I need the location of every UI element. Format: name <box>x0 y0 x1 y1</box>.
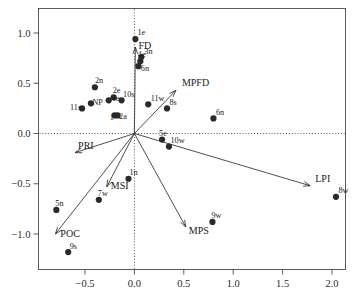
point-label: 5e <box>159 129 167 138</box>
vector-label-mpfd: MPFD <box>182 77 209 88</box>
point-label: 1 <box>110 113 114 122</box>
vector-label-lpi: LPI <box>315 173 330 184</box>
point-label: 4e <box>112 94 120 103</box>
point-label: 11s <box>70 103 81 112</box>
x-tick-label: −0.5 <box>75 278 94 289</box>
point-label: 8w <box>338 186 348 195</box>
vector-fd <box>134 47 135 133</box>
arrowhead-mps <box>180 220 185 227</box>
point-label: 6n <box>141 64 149 73</box>
x-tick-label: 0.5 <box>177 278 190 289</box>
biplot-svg: −0.50.00.51.01.52.01.00.50.0−0.5−1.0 1e3… <box>0 0 354 307</box>
point-label: 1e <box>137 28 145 37</box>
point-label: 5n <box>55 199 63 208</box>
point-label: 9s <box>70 242 77 251</box>
data-point <box>92 84 98 90</box>
axis-tick-labels: −0.50.00.51.01.52.01.00.50.0−0.5−1.0 <box>11 28 338 289</box>
y-tick-label: −0.5 <box>11 178 30 189</box>
point-label: 2n <box>95 76 103 85</box>
point-label: 7w <box>98 189 108 198</box>
point-label: 2a <box>119 112 127 121</box>
point-label: 10s <box>123 90 134 99</box>
loading-vector-labels: FDMPFDPRILPIPOCMSIMPS <box>60 40 330 239</box>
y-tick-label: 1.0 <box>17 28 30 39</box>
point-label: 1n <box>129 168 137 177</box>
vector-label-msi: MSI <box>111 180 129 191</box>
vector-label-fd: FD <box>138 40 151 51</box>
point-label: NP <box>92 98 103 107</box>
point-label: 6n <box>216 108 224 117</box>
point-label: 10w <box>170 136 184 145</box>
point-label: 11w <box>151 94 165 103</box>
vector-label-mps: MPS <box>189 225 209 236</box>
biplot-chart: −0.50.00.51.01.52.01.00.50.0−0.5−1.0 1e3… <box>0 0 354 307</box>
y-tick-label: −1.0 <box>11 229 30 240</box>
vector-label-pri: PRI <box>78 140 94 151</box>
x-tick-label: 0.0 <box>128 278 141 289</box>
vector-label-poc: POC <box>60 228 80 239</box>
x-tick-label: 1.0 <box>227 278 240 289</box>
point-label: 8s <box>170 98 177 107</box>
y-tick-label: 0.0 <box>17 128 30 139</box>
data-point-labels: 1e3n4e6n2n2e4e10s11w11sNP12a8s6n5e10w1n7… <box>55 28 348 251</box>
y-tick-label: 0.5 <box>17 78 30 89</box>
x-tick-label: 1.5 <box>276 278 289 289</box>
vector-mps <box>134 134 185 227</box>
point-label: 9w <box>211 211 221 220</box>
x-tick-label: 2.0 <box>325 278 338 289</box>
